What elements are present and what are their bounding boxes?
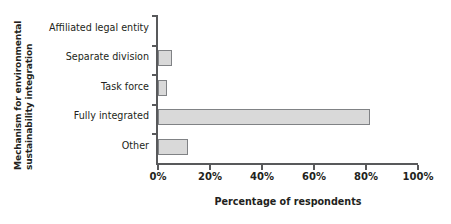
category-tick: [152, 45, 157, 47]
x-axis-tick-label: 0%: [150, 171, 167, 182]
bar: [158, 80, 167, 96]
x-axis-tick: [209, 165, 211, 170]
x-axis-tick: [365, 165, 367, 170]
category-row: Task force: [158, 74, 418, 104]
category-row: Affiliated legal entity: [158, 15, 418, 45]
category-tick: [152, 74, 157, 76]
category-row: Other: [158, 133, 418, 163]
category-label: Fully integrated: [74, 110, 149, 121]
x-axis-tick-label: 60%: [302, 171, 326, 182]
category-label: Separate division: [66, 51, 149, 62]
x-axis-tick-label: 20%: [198, 171, 222, 182]
category-label: Affiliated legal entity: [49, 22, 149, 33]
y-axis-title-line-2: sustainability integration: [24, 44, 35, 170]
category-label: Task force: [101, 81, 149, 92]
x-axis-line: [156, 163, 418, 165]
bar: [158, 139, 188, 155]
y-axis-title-line-1: Mechanism for environmental: [13, 21, 24, 170]
x-axis-tick-label: 40%: [250, 171, 274, 182]
x-axis-tick: [417, 165, 419, 170]
plot-area: Affiliated legal entity Separate divisio…: [158, 15, 418, 163]
bar-chart-figure: Mechanism for environmental sustainabili…: [0, 0, 451, 224]
category-label: Other: [122, 140, 149, 151]
y-axis-title: Mechanism for environmental sustainabili…: [0, 0, 34, 172]
x-axis-tick: [157, 165, 159, 170]
bar: [158, 50, 172, 66]
category-row: Separate division: [158, 45, 418, 75]
x-axis-tick-label: 100%: [403, 171, 434, 182]
category-tick: [152, 133, 157, 135]
category-row: Fully integrated: [158, 104, 418, 134]
x-axis-tick-label: 80%: [354, 171, 378, 182]
x-axis-tick: [313, 165, 315, 170]
bar: [158, 109, 370, 125]
x-axis-tick: [261, 165, 263, 170]
category-tick: [152, 15, 157, 17]
category-tick: [152, 104, 157, 106]
x-axis-title: Percentage of respondents: [158, 196, 418, 207]
